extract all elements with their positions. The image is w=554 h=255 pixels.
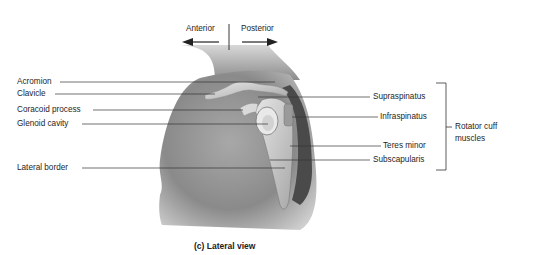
label-rotator-cuff: Rotator cuff	[455, 122, 497, 132]
label-acromion: Acromion	[17, 77, 52, 87]
label-lateral-border: Lateral border	[17, 163, 68, 173]
figure-caption: (c) Lateral view	[194, 241, 255, 251]
anterior-arrow-icon	[182, 38, 193, 46]
anterior-label: Anterior	[186, 24, 215, 34]
label-subscapularis: Subscapularis	[373, 155, 424, 165]
label-clavicle: Clavicle	[17, 89, 46, 99]
label-supraspinatus: Supraspinatus	[373, 92, 425, 102]
label-teres-minor: Teres minor	[383, 141, 426, 151]
posterior-label: Posterior	[241, 24, 274, 34]
posterior-arrow-icon	[267, 38, 278, 46]
label-muscles: muscles	[455, 134, 485, 144]
infraspinatus-muscle	[284, 104, 293, 126]
label-coracoid-process: Coracoid process	[17, 105, 81, 115]
rotator-cuff-bracket	[436, 83, 446, 170]
label-infraspinatus: Infraspinatus	[380, 112, 427, 122]
label-glenoid-cavity: Glenoid cavity	[17, 119, 68, 129]
